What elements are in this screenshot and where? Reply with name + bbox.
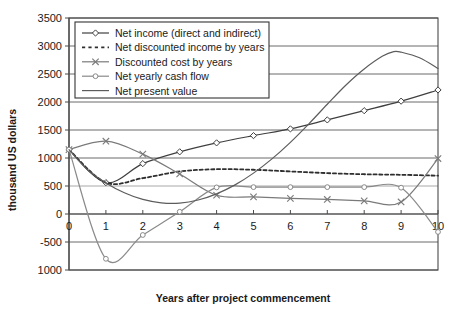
data-point-marker [362,185,367,190]
y-tick-label-3000: 3000 [38,40,62,52]
y-tick-label-2000: 2000 [38,96,62,108]
data-point-marker [436,230,441,235]
x-tick-label-7: 7 [324,220,330,232]
y-tick-label--1000: 1000 [38,264,62,276]
y-axis-title: thousand US dollars [6,109,18,211]
y-tick-label-2500: 2500 [38,68,62,80]
chart-figure: 3500300025002000150010005000-5001000 012… [0,0,456,319]
y-tick-label-0: 0 [56,208,62,220]
x-tick-label-9: 9 [398,220,404,232]
data-point-marker [177,209,182,214]
data-point-marker [104,256,109,261]
line-chart-svg: 3500300025002000150010005000-5001000 012… [0,0,456,319]
legend-label-1: Net discounted income by years [115,41,264,53]
x-tick-label-1: 1 [103,220,109,232]
data-point-marker [140,233,145,238]
y-tick-label-1000: 1000 [38,152,62,164]
y-tick-label-1500: 1500 [38,124,62,136]
legend-label-0: Net income (direct and indirect) [115,27,261,39]
data-point-marker [288,185,293,190]
chart-legend: Net income (direct and indirect)Net disc… [75,22,269,98]
y-tick-label--500: -500 [40,236,62,248]
legend-label-3: Net yearly cash flow [115,70,209,82]
x-tick-label-0: 0 [66,220,72,232]
legend-label-2: Discounted cost by years [115,56,232,68]
x-tick-label-6: 6 [287,220,293,232]
data-point-marker [93,74,98,79]
x-tick-label-2: 2 [140,220,146,232]
x-axis-title: Years after project commencement [156,292,331,304]
data-point-marker [214,185,219,190]
data-point-marker [399,185,404,190]
data-point-marker [325,185,330,190]
x-tick-label-4: 4 [214,220,220,232]
data-point-marker [251,185,256,190]
y-tick-label-3500: 3500 [38,12,62,24]
x-tick-label-8: 8 [361,220,367,232]
x-tick-label-3: 3 [177,220,183,232]
legend-label-4: Net present value [115,85,197,97]
y-tick-label-500: 500 [44,180,62,192]
x-tick-label-5: 5 [250,220,256,232]
